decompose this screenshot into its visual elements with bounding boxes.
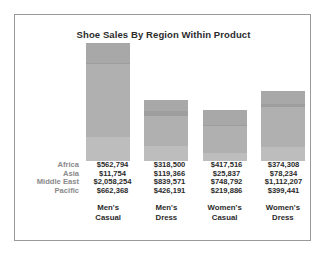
bar-women-s-dress: [261, 91, 305, 161]
category-label-line: Women's: [196, 203, 254, 213]
bar-segment-middle-east: [261, 107, 305, 147]
bar-segment-africa: [144, 100, 188, 111]
category-label-line: Women's: [254, 203, 312, 213]
bar-segment-africa: [203, 110, 247, 125]
value-table-body: Africa$562,794$318,500$417,516$374,308As…: [15, 161, 312, 195]
bar-segment-middle-east: [86, 64, 130, 138]
table-row-label: Pacific: [15, 187, 84, 196]
bar-women-s-casual: [203, 110, 247, 161]
category-label-men-s-casual: Men'sCasual: [79, 203, 137, 222]
bar-segment-pacific: [86, 137, 130, 161]
category-label-line: Casual: [79, 213, 137, 223]
bar-men-s-dress: [144, 100, 188, 161]
category-label-line: Dress: [254, 213, 312, 223]
category-label-line: Men's: [137, 203, 195, 213]
table-row: Pacific$662,368$426,191$219,886$399,441: [15, 187, 312, 196]
category-axis-labels: Men'sCasualMen'sDressWomen'sCasualWomen'…: [15, 203, 312, 222]
category-label-women-s-casual: Women'sCasual: [196, 203, 254, 222]
bar-segment-pacific: [144, 146, 188, 161]
bar-segment-middle-east: [144, 116, 188, 146]
table-cell-value: $219,886: [198, 187, 255, 196]
data-value-table: Africa$562,794$318,500$417,516$374,308As…: [15, 161, 312, 195]
table-cell-value: $426,191: [141, 187, 198, 196]
category-label-line: Men's: [79, 203, 137, 213]
bar-segment-pacific: [261, 147, 305, 161]
value-table: Africa$562,794$318,500$417,516$374,308As…: [15, 161, 312, 195]
bar-men-s-casual: [86, 43, 130, 161]
category-label-line: Casual: [196, 213, 254, 223]
axis-label-spacer: [15, 203, 79, 222]
table-cell-value: $399,441: [255, 187, 312, 196]
bar-segment-africa: [261, 91, 305, 104]
bar-segment-africa: [86, 43, 130, 63]
category-label-men-s-dress: Men'sDress: [137, 203, 195, 222]
chart-frame: Shoe Sales By Region Within Product Afri…: [14, 14, 311, 241]
bar-segment-middle-east: [203, 126, 247, 153]
category-label-line: Dress: [137, 213, 195, 223]
category-label-women-s-dress: Women'sDress: [254, 203, 312, 222]
table-cell-value: $662,368: [84, 187, 141, 196]
